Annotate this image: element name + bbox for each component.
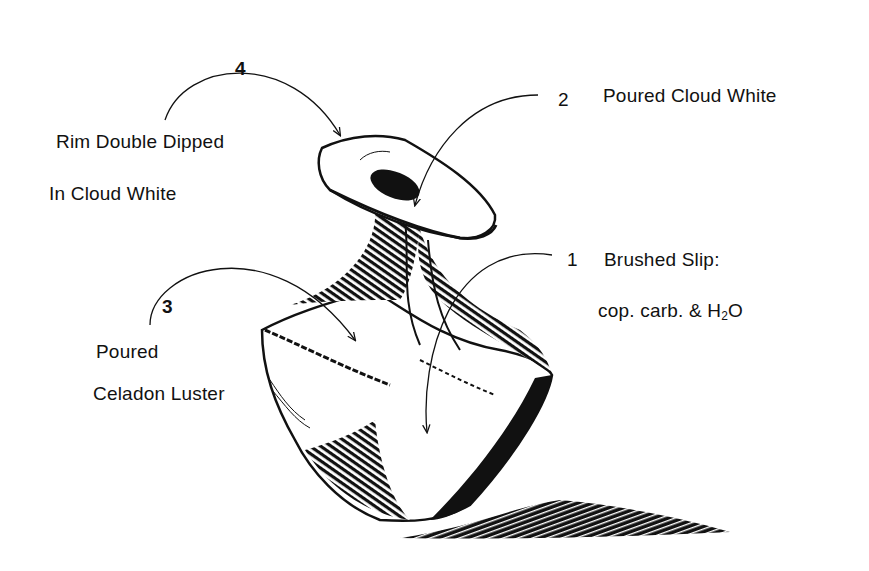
callout-1-line-2: cop. carb. & H2O [598,300,743,323]
leader-4 [165,73,340,135]
callout-number-2: 2 [558,89,569,111]
callout-number-3: 3 [162,296,173,318]
callout-2-line-1: Poured Cloud White [603,85,777,107]
callout-4-line-2: In Cloud White [49,183,176,205]
callout-3-line-1: Poured [96,341,158,363]
pottery-glaze-diagram: 4 Rim Double Dipped In Cloud White 2 Pou… [0,0,869,571]
callout-4-line-1: Rim Double Dipped [56,131,224,153]
formula-suffix: O [728,300,743,321]
vessel-rim [319,136,496,238]
formula-prefix: cop. carb. & H [598,300,721,321]
callout-number-4: 4 [235,58,246,80]
callout-1-line-1: Brushed Slip: [604,249,720,271]
callout-3-line-2: Celadon Luster [93,383,225,405]
vessel-body [262,290,552,521]
callout-number-1: 1 [567,249,578,271]
